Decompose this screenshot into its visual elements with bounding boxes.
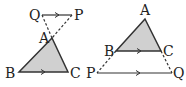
dashed-pa xyxy=(52,15,72,38)
label-b-left: B xyxy=(5,65,15,81)
label-a-left: A xyxy=(38,30,50,46)
figure-right: A B C P Q xyxy=(86,2,184,81)
label-q-right: Q xyxy=(173,65,184,81)
figure-left: Q P A B C xyxy=(5,7,83,81)
label-p-right: P xyxy=(86,65,95,81)
label-p-left: P xyxy=(74,7,83,23)
label-q-left: Q xyxy=(29,7,40,23)
diagram-canvas: Q P A B C A B C P Q xyxy=(0,0,186,87)
label-c-right: C xyxy=(163,43,174,59)
triangle-abc-right xyxy=(116,19,161,51)
label-a-right: A xyxy=(139,2,151,18)
label-c-left: C xyxy=(70,65,81,81)
label-b-right: B xyxy=(104,43,114,59)
